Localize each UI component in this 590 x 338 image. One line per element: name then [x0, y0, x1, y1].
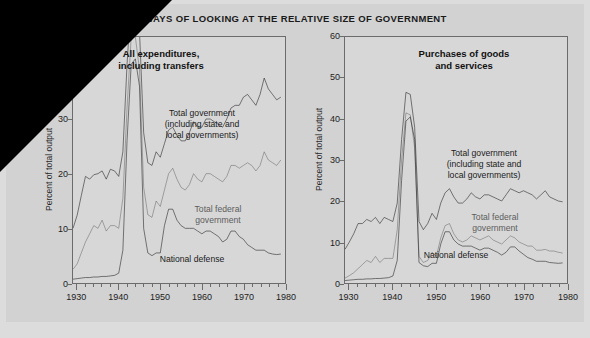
- x-tick-mark-minor: [194, 284, 195, 287]
- y-tick-mark: [339, 119, 344, 120]
- x-tick-label: 1940: [382, 292, 402, 302]
- x-tick-mark-minor: [454, 284, 455, 287]
- plot-area-left: [72, 36, 286, 284]
- x-tick-mark-major: [76, 284, 77, 290]
- x-tick-mark-major: [480, 284, 481, 290]
- x-tick-mark-minor: [498, 284, 499, 287]
- x-tick-mark-minor: [261, 284, 262, 287]
- lines-left: [73, 37, 285, 283]
- x-tick-label: 1970: [514, 292, 534, 302]
- x-tick-mark-minor: [427, 284, 428, 287]
- y-tick-mark: [339, 36, 344, 37]
- x-tick-mark-minor: [210, 284, 211, 287]
- x-tick-mark-minor: [110, 284, 111, 287]
- annotation-national-defense-left: National defense: [144, 254, 240, 265]
- x-tick-mark-minor: [410, 284, 411, 287]
- x-tick-label: 1930: [66, 292, 86, 302]
- x-tick-mark-major: [244, 284, 245, 290]
- x-tick-label: 1980: [558, 292, 578, 302]
- x-tick-mark-major: [568, 284, 569, 290]
- x-tick-mark-minor: [219, 284, 220, 287]
- chart-panel-purchases: Percent of total output Purchases of goo…: [306, 36, 568, 306]
- y-tick-mark: [67, 64, 72, 65]
- x-tick-mark-minor: [507, 284, 508, 287]
- figure-page: TWO WAYS OF LOOKING AT THE RELATIVE SIZE…: [0, 0, 590, 338]
- x-tick-mark-major: [160, 284, 161, 290]
- x-tick-mark-minor: [357, 284, 358, 287]
- y-tick-mark: [339, 160, 344, 161]
- x-tick-mark-major: [524, 284, 525, 290]
- x-tick-mark-minor: [227, 284, 228, 287]
- x-tick-mark-minor: [419, 284, 420, 287]
- x-tick-label: 1960: [192, 292, 212, 302]
- x-tick-mark-major: [392, 284, 393, 290]
- x-tick-mark-minor: [533, 284, 534, 287]
- x-tick-mark-minor: [542, 284, 543, 287]
- x-tick-mark-major: [286, 284, 287, 290]
- x-tick-label: 1980: [276, 292, 296, 302]
- annotation-total-federal-left: Total federal government: [174, 204, 262, 226]
- x-tick-mark-minor: [169, 284, 170, 287]
- annotation-total-government-left: Total government (including state and lo…: [142, 108, 262, 141]
- x-tick-mark-minor: [101, 284, 102, 287]
- x-tick-mark-minor: [471, 284, 472, 287]
- x-tick-mark-major: [202, 284, 203, 290]
- x-tick-mark-minor: [384, 284, 385, 287]
- x-tick-mark-major: [436, 284, 437, 290]
- y-axis-label-right: Percent of total output: [314, 108, 324, 191]
- x-tick-label: 1960: [470, 292, 490, 302]
- chart-title-right: Purchases of goods and services: [398, 48, 530, 72]
- figure-title: TWO WAYS OF LOOKING AT THE RELATIVE SIZE…: [118, 13, 447, 24]
- x-tick-mark-minor: [269, 284, 270, 287]
- x-tick-label: 1950: [426, 292, 446, 302]
- y-tick-mark: [67, 229, 72, 230]
- x-tick-mark-minor: [375, 284, 376, 287]
- x-tick-mark-minor: [135, 284, 136, 287]
- series-line: [73, 59, 281, 279]
- x-tick-label: 1940: [108, 292, 128, 302]
- y-tick-mark: [339, 201, 344, 202]
- x-tick-mark-minor: [177, 284, 178, 287]
- x-tick-mark-minor: [127, 284, 128, 287]
- x-tick-mark-minor: [515, 284, 516, 287]
- annotation-total-federal-right: Total federal government: [452, 212, 538, 234]
- chart-panel-all-expenditures: Percent of total output All expenditures…: [34, 36, 286, 306]
- x-tick-mark-minor: [278, 284, 279, 287]
- y-tick-mark: [339, 77, 344, 78]
- x-tick-mark-major: [118, 284, 119, 290]
- x-tick-mark-minor: [185, 284, 186, 287]
- y-tick-mark: [67, 119, 72, 120]
- x-tick-mark-minor: [252, 284, 253, 287]
- x-axis-left: 193019401950196019701980: [72, 284, 286, 306]
- annotation-total-government-right: Total government (including state and lo…: [424, 148, 544, 181]
- x-tick-mark-minor: [463, 284, 464, 287]
- x-tick-mark-minor: [236, 284, 237, 287]
- x-tick-mark-minor: [143, 284, 144, 287]
- x-tick-mark-minor: [85, 284, 86, 287]
- x-tick-mark-minor: [489, 284, 490, 287]
- x-tick-mark-minor: [445, 284, 446, 287]
- x-tick-label: 1950: [150, 292, 170, 302]
- x-tick-label: 1970: [234, 292, 254, 302]
- x-axis-right: 193019401950196019701980: [344, 284, 568, 306]
- y-tick-mark: [67, 174, 72, 175]
- x-tick-mark-minor: [366, 284, 367, 287]
- x-tick-mark-minor: [152, 284, 153, 287]
- x-tick-mark-minor: [559, 284, 560, 287]
- chart-title-left: All expenditures, including transfers: [96, 48, 226, 72]
- x-tick-mark-major: [348, 284, 349, 290]
- x-tick-mark-minor: [550, 284, 551, 287]
- x-tick-label: 1930: [338, 292, 358, 302]
- annotation-national-defense-right: National defense: [410, 250, 502, 261]
- x-tick-mark-minor: [93, 284, 94, 287]
- y-tick-mark: [339, 243, 344, 244]
- x-tick-mark-minor: [401, 284, 402, 287]
- y-axis-label-left: Percent of total output: [44, 128, 54, 211]
